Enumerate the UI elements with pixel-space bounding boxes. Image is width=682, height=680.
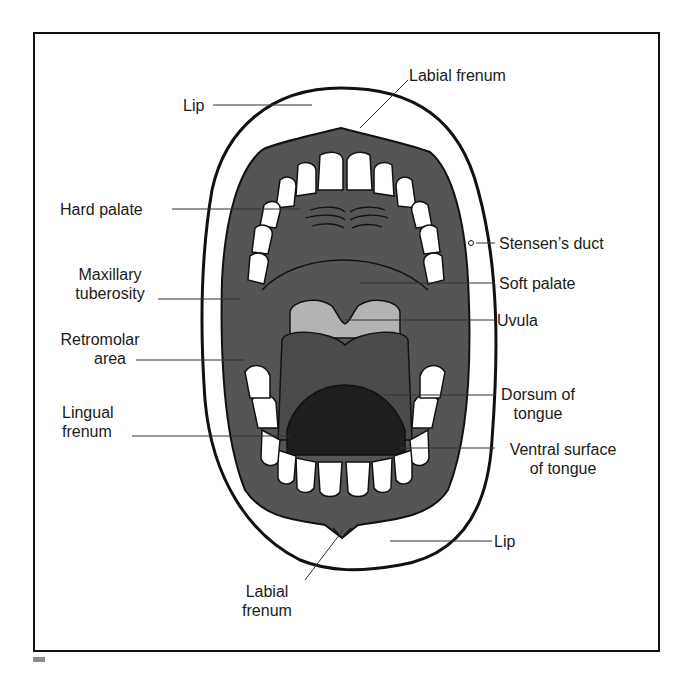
- label-line-1: Labial: [234, 582, 300, 601]
- label-maxillary-tuberosity: Maxillary tuberosity: [62, 265, 158, 303]
- label-soft-palate: Soft palate: [499, 274, 576, 293]
- label-dorsum-of-tongue: Dorsum of tongue: [490, 385, 586, 423]
- stensens-duct-icon: [469, 241, 474, 246]
- label-uvula: Uvula: [497, 311, 538, 330]
- label-lip-bottom: Lip: [494, 532, 515, 551]
- label-line-1: Ventral surface: [492, 440, 634, 459]
- label-line-2: area: [58, 349, 142, 368]
- label-line-2: tongue: [490, 404, 586, 423]
- label-ventral-surface-of-tongue: Ventral surface of tongue: [492, 440, 634, 478]
- label-lingual-frenum: Lingual frenum: [62, 403, 114, 441]
- label-line-2: frenum: [62, 422, 114, 441]
- label-lip-top: Lip: [183, 96, 204, 115]
- label-line-2: tuberosity: [62, 284, 158, 303]
- label-labial-frenum-bottom: Labial frenum: [234, 582, 300, 620]
- label-line-2: frenum: [234, 601, 300, 620]
- label-labial-frenum-top: Labial frenum: [409, 66, 506, 85]
- label-line-2: of tongue: [492, 459, 634, 478]
- label-hard-palate: Hard palate: [60, 200, 143, 219]
- label-line-1: Dorsum of: [490, 385, 586, 404]
- label-stensens-duct: Stensen’s duct: [499, 234, 604, 253]
- label-line-1: Maxillary: [62, 265, 158, 284]
- label-line-1: Lingual: [62, 403, 114, 422]
- label-retromolar-area: Retromolar area: [58, 330, 142, 368]
- label-line-1: Retromolar: [58, 330, 142, 349]
